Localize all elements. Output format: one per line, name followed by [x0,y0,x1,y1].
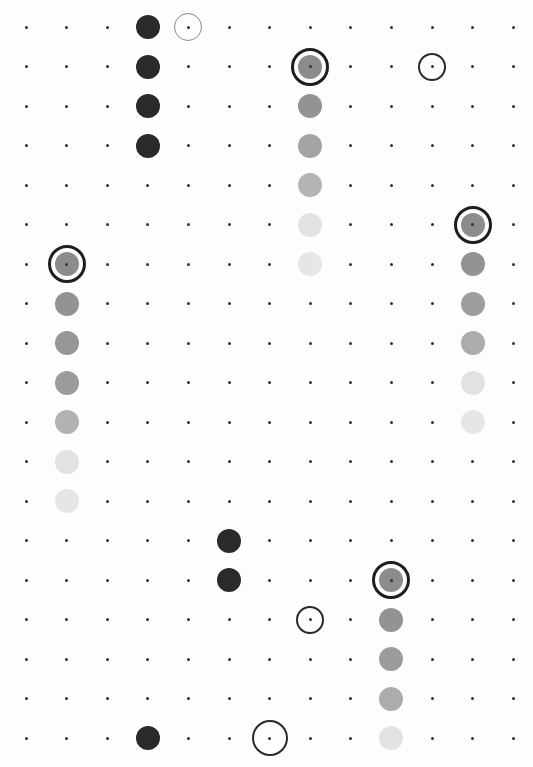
grid-cell[interactable] [87,86,127,126]
grid-cell[interactable] [371,7,411,47]
grid-cell[interactable] [290,323,330,363]
grid-cell[interactable] [87,323,127,363]
grid-cell[interactable] [331,521,371,561]
grid-cell[interactable] [6,402,46,442]
grid-cell[interactable] [493,323,533,363]
grid-cell[interactable] [47,521,87,561]
grid-cell[interactable] [168,7,208,47]
grid-cell[interactable] [412,600,452,640]
grid-cell[interactable] [250,323,290,363]
grid-cell[interactable] [412,205,452,245]
grid-cell[interactable] [371,481,411,521]
grid-cell[interactable] [412,47,452,87]
grid-cell[interactable] [290,560,330,600]
grid-cell[interactable] [371,244,411,284]
grid-cell[interactable] [128,86,168,126]
grid-cell[interactable] [128,284,168,324]
grid-cell[interactable] [6,86,46,126]
grid-cell[interactable] [47,442,87,482]
grid-cell[interactable] [87,600,127,640]
grid-cell[interactable] [331,560,371,600]
grid-cell[interactable] [290,205,330,245]
grid-cell[interactable] [250,442,290,482]
grid-cell[interactable] [209,205,249,245]
grid-cell[interactable] [412,679,452,719]
grid-cell[interactable] [412,363,452,403]
grid-cell[interactable] [290,402,330,442]
grid-cell[interactable] [168,600,208,640]
grid-cell[interactable] [6,600,46,640]
grid-cell[interactable] [412,244,452,284]
game-board[interactable]: Dot grid board [0,0,533,767]
grid-cell[interactable] [371,86,411,126]
grid-cell[interactable] [6,639,46,679]
dark-piece[interactable] [136,94,160,118]
grid-cell[interactable] [128,442,168,482]
grid-cell[interactable] [290,47,330,87]
grid-cell[interactable] [453,7,493,47]
grid-cell[interactable] [493,481,533,521]
grid-cell[interactable] [168,481,208,521]
grid-cell[interactable] [250,7,290,47]
grid-cell[interactable] [453,47,493,87]
grid-cell[interactable] [453,402,493,442]
grid-cell[interactable] [412,126,452,166]
grid-cell[interactable] [6,718,46,758]
grid-cell[interactable] [250,639,290,679]
grid-cell[interactable] [371,47,411,87]
grid-cell[interactable] [6,244,46,284]
grid-cell[interactable] [168,86,208,126]
grid-cell[interactable] [493,205,533,245]
grid-cell[interactable] [331,205,371,245]
grid-cell[interactable] [87,442,127,482]
grid-cell[interactable] [209,126,249,166]
grid-cell[interactable] [453,639,493,679]
grid-cell[interactable] [412,639,452,679]
grid-cell[interactable] [87,402,127,442]
grid-cell[interactable] [290,284,330,324]
grid-cell[interactable] [87,47,127,87]
grid-cell[interactable] [250,679,290,719]
grid-cell[interactable] [209,47,249,87]
grid-cell[interactable] [209,521,249,561]
grid-cell[interactable] [87,718,127,758]
grid-cell[interactable] [250,363,290,403]
grid-cell[interactable] [87,284,127,324]
grid-cell[interactable] [493,47,533,87]
grid-cell[interactable] [168,402,208,442]
grid-cell[interactable] [209,639,249,679]
grid-cell[interactable] [6,442,46,482]
grid-cell[interactable] [6,481,46,521]
grid-cell[interactable] [128,639,168,679]
grid-cell[interactable] [412,442,452,482]
grid-cell[interactable] [493,165,533,205]
grid-cell[interactable] [168,47,208,87]
grid-cell[interactable] [453,718,493,758]
grid-cell[interactable] [47,402,87,442]
grid-cell[interactable] [331,679,371,719]
grid-cell[interactable] [331,244,371,284]
grid-cell[interactable] [250,86,290,126]
grid-cell[interactable] [331,718,371,758]
grid-cell[interactable] [453,560,493,600]
grid-cell[interactable] [453,165,493,205]
grid-cell[interactable] [6,521,46,561]
grid-cell[interactable] [412,86,452,126]
dark-piece[interactable] [136,55,160,79]
grid-cell[interactable] [371,521,411,561]
grid-cell[interactable] [331,165,371,205]
grid-cell[interactable] [412,402,452,442]
grid-cell[interactable] [128,402,168,442]
grid-cell[interactable] [493,600,533,640]
grid-cell[interactable] [493,402,533,442]
grid-cell[interactable] [331,47,371,87]
grid-cell[interactable] [290,639,330,679]
grid-cell[interactable] [209,7,249,47]
grid-cell[interactable] [331,7,371,47]
grid-cell[interactable] [209,679,249,719]
grid-cell[interactable] [87,244,127,284]
grid-cell[interactable] [290,521,330,561]
grid-cell[interactable] [209,86,249,126]
grid-cell[interactable] [128,244,168,284]
grid-cell[interactable] [493,244,533,284]
